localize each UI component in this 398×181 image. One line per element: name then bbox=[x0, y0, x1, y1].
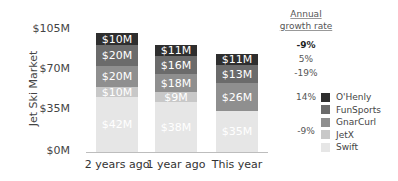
bar-this-year: $35M $26M $13M $11M bbox=[216, 0, 258, 152]
segment-jetx: $10M bbox=[96, 87, 138, 97]
legend-swatch bbox=[321, 93, 330, 102]
legend-item-funsports: FunSports bbox=[321, 104, 381, 117]
legend-item-gnarcurl: GnarCurl bbox=[321, 116, 381, 129]
bar-1-year-ago: $38M $9M $18M $16M $11M bbox=[155, 0, 197, 152]
growth-rate-title: Annual growth rate bbox=[270, 8, 342, 32]
segment-funsports: $20M bbox=[96, 45, 138, 66]
growth-rate-ohenly: 5% bbox=[270, 54, 342, 64]
legend-swatch bbox=[321, 130, 330, 139]
y-tick-105: $105M bbox=[0, 22, 70, 35]
legend: O'Henly FunSports GnarCurl JetX Swift bbox=[321, 91, 381, 154]
growth-rate-funsports: -19% bbox=[270, 68, 342, 78]
legend-item-ohenly: O'Henly bbox=[321, 91, 381, 104]
legend-item-jetx: JetX bbox=[321, 129, 381, 142]
bar-2-years-ago: $42M $10M $20M $20M $10M bbox=[96, 0, 138, 152]
segment-swift: $42M bbox=[96, 97, 138, 152]
legend-item-swift: Swift bbox=[321, 141, 381, 154]
segment-gnarcurl: $18M bbox=[155, 74, 197, 92]
legend-swatch bbox=[321, 118, 330, 127]
x-tick-1-year-ago: 1 year ago bbox=[141, 158, 211, 171]
segment-ohenly: $11M bbox=[155, 45, 197, 56]
segment-jetx: $9M bbox=[155, 92, 197, 102]
segment-gnarcurl: $26M bbox=[216, 83, 258, 111]
segment-ohenly: $10M bbox=[96, 33, 138, 45]
legend-swatch bbox=[321, 143, 330, 152]
y-tick-35: $35M bbox=[0, 102, 70, 115]
segment-gnarcurl: $20M bbox=[96, 66, 138, 87]
segment-ohenly: $11M bbox=[216, 54, 258, 65]
y-tick-70: $70M bbox=[0, 62, 70, 75]
x-axis-line bbox=[86, 152, 268, 153]
legend-swatch bbox=[321, 105, 330, 114]
y-axis-label: Jet Ski Market bbox=[27, 44, 40, 134]
segment-funsports: $13M bbox=[216, 65, 258, 83]
x-tick-this-year: This year bbox=[202, 158, 272, 171]
segment-funsports: $16M bbox=[155, 56, 197, 74]
segment-swift: $38M bbox=[155, 102, 197, 152]
segment-swift: $35M bbox=[216, 111, 258, 152]
growth-rate-total: -9% bbox=[270, 40, 342, 50]
y-tick-0: $0M bbox=[0, 144, 70, 157]
